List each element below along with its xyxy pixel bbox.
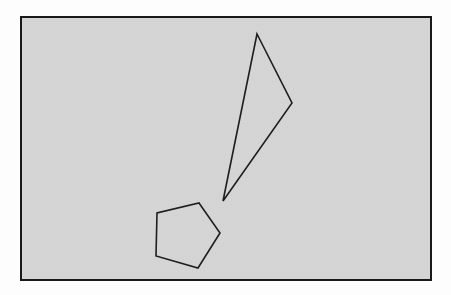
figure-canvas bbox=[0, 0, 451, 295]
outer-rectangle-frame bbox=[21, 17, 431, 280]
figure-svg bbox=[0, 0, 451, 295]
